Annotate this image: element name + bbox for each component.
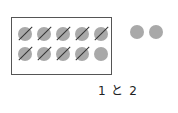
crossed-dot-icon [18,47,32,61]
crossed-dot-icon [75,27,89,41]
slash-mark [56,26,70,40]
extra-dot-icon [149,25,163,39]
slash-mark [75,26,89,40]
slash-mark [75,46,89,60]
dot-icon [94,47,108,61]
crossed-dot-icon [18,27,32,41]
extra-dot-icon [130,25,144,39]
crossed-dot-icon [37,27,51,41]
ten-frame [11,17,112,75]
crossed-dot-icon [56,47,70,61]
crossed-dot-icon [37,47,51,61]
slash-mark [18,26,32,40]
slash-mark [37,46,51,60]
slash-mark [18,46,32,60]
slash-mark [56,46,70,60]
slash-mark [37,26,51,40]
crossed-dot-icon [56,27,70,41]
caption: 1 と 2 [92,81,144,98]
slash-mark [94,26,108,40]
crossed-dot-icon [75,47,89,61]
crossed-dot-icon [94,27,108,41]
